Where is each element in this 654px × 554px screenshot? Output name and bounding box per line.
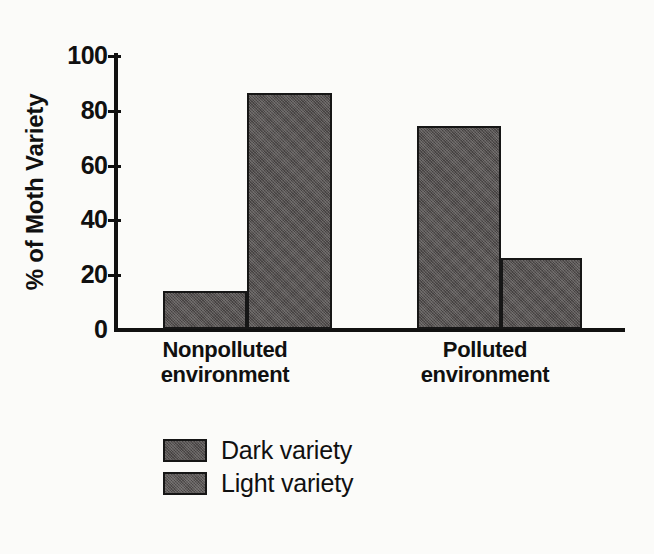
y-tick-label-40: 40	[81, 205, 108, 234]
y-tick-100: 100	[108, 55, 121, 58]
bar-nonpolluted-dark	[163, 291, 247, 329]
y-tick-label-80: 80	[81, 95, 108, 124]
bar-nonpolluted-light	[247, 93, 332, 329]
legend-item-light-variety: Light variety	[163, 469, 353, 498]
y-tick-label-20: 20	[81, 260, 108, 289]
category-label-polluted-line2: environment	[390, 363, 580, 388]
y-tick-60: 60	[108, 165, 121, 168]
plot-area: 100 80 60 40 20 0	[118, 55, 625, 329]
y-tick-label-0: 0	[94, 315, 107, 344]
legend-label-light-variety: Light variety	[221, 469, 353, 498]
y-tick-20: 20	[108, 274, 121, 277]
dark-variety-swatch-icon	[163, 439, 207, 462]
y-tick-label-60: 60	[81, 150, 108, 179]
chart-legend: Dark variety Light variety	[163, 436, 353, 502]
bar-polluted-dark	[417, 126, 501, 329]
category-label-polluted: Polluted environment	[390, 338, 580, 387]
legend-item-dark-variety: Dark variety	[163, 436, 353, 465]
category-label-nonpolluted-line2: environment	[130, 363, 320, 388]
legend-label-dark-variety: Dark variety	[221, 436, 352, 465]
category-label-polluted-line1: Polluted	[390, 338, 580, 363]
y-axis-title: % of Moth Variety	[18, 55, 52, 329]
category-label-nonpolluted-line1: Nonpolluted	[130, 338, 320, 363]
category-label-nonpolluted: Nonpolluted environment	[130, 338, 320, 387]
light-variety-swatch-icon	[163, 472, 207, 495]
y-tick-80: 80	[108, 110, 121, 113]
y-tick-label-100: 100	[67, 41, 107, 70]
y-tick-40: 40	[108, 219, 121, 222]
bar-polluted-light	[501, 258, 582, 329]
y-axis-title-text: % of Moth Variety	[21, 94, 49, 291]
bar-chart-figure: % of Moth Variety 100 80 60 40 20 0 No	[0, 0, 654, 554]
